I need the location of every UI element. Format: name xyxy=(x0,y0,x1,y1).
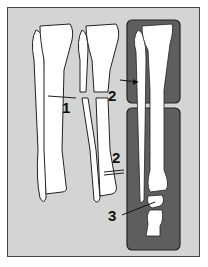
callout-2-lower: 2 xyxy=(112,150,120,165)
callout-1: 1 xyxy=(62,100,70,115)
callout-3: 3 xyxy=(108,208,116,223)
xray-panels xyxy=(120,20,180,250)
bone-pair-fractured xyxy=(78,24,124,202)
tibia-mid-upper xyxy=(86,24,119,92)
bone-diagram xyxy=(0,0,208,267)
callout-2-upper: 2 xyxy=(108,88,116,103)
fibula-mid-upper xyxy=(78,30,88,92)
tibia-mid-lower xyxy=(96,98,117,196)
